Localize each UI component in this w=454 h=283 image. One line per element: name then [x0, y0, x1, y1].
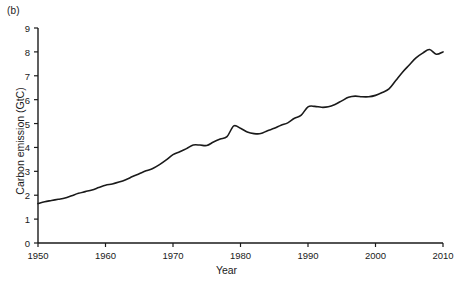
x-tick-label-1990: 1990: [297, 250, 318, 261]
y-tick-label-1: 1: [8, 214, 30, 225]
x-tick-label-2000: 2000: [365, 250, 386, 261]
panel-label: (b): [7, 5, 20, 16]
y-tick-label-6: 6: [8, 94, 30, 105]
x-tick-label-1960: 1960: [95, 250, 116, 261]
x-tick-label-1970: 1970: [162, 250, 183, 261]
y-tick-label-5: 5: [8, 118, 30, 129]
y-tick-label-9: 9: [8, 23, 30, 34]
axis-spines: [38, 28, 443, 243]
x-tick-label-1950: 1950: [27, 250, 48, 261]
y-tick-label-3: 3: [8, 166, 30, 177]
y-tick-label-8: 8: [8, 46, 30, 57]
y-tick-label-7: 7: [8, 70, 30, 81]
x-tick-label-1980: 1980: [230, 250, 251, 261]
data-line-series-0: [38, 49, 443, 203]
y-tick-label-4: 4: [8, 142, 30, 153]
y-tick-label-0: 0: [8, 238, 30, 249]
y-tick-label-2: 2: [8, 190, 30, 201]
x-tick-label-2010: 2010: [432, 250, 453, 261]
axis-tick-marks: [34, 28, 443, 247]
x-axis-label: Year: [0, 264, 453, 276]
